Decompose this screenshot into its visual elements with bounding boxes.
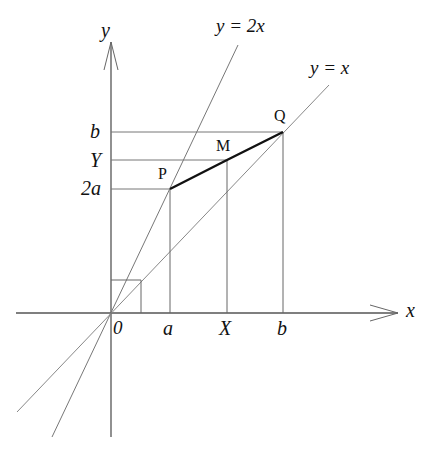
diagram-canvas: [0, 0, 435, 458]
x-tick-X: X: [219, 318, 231, 338]
x-axis-label: x: [406, 300, 415, 320]
y-tick-b: b: [90, 121, 100, 141]
point-label-P: P: [158, 166, 167, 182]
line-y-eq-x: [17, 85, 329, 412]
line-y-eq-2x: [52, 45, 238, 437]
label-y-eq-x: y = x: [310, 58, 349, 77]
origin-label: 0: [113, 318, 123, 337]
y-tick-Y: Y: [90, 150, 101, 170]
point-label-Q: Q: [274, 108, 286, 124]
point-label-M: M: [216, 138, 230, 154]
label-y-eq-2x: y = 2x: [216, 16, 265, 35]
y-axis-label: y: [101, 20, 110, 40]
x-tick-b: b: [277, 318, 287, 338]
y-tick-2a: 2a: [81, 178, 101, 198]
diagram: y x 0 a X b b Y 2a y = 2x y = x P M Q: [0, 0, 435, 458]
x-tick-a: a: [163, 318, 173, 338]
